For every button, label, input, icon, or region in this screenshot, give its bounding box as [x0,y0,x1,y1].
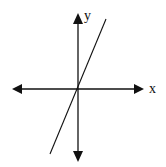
x-axis-right-arrow-icon [134,84,144,94]
y-axis-down-arrow-icon [73,151,83,162]
y-axis-up-arrow-icon [73,13,83,24]
coordinate-plane: y x [0,0,166,167]
x-axis-label: x [149,81,156,96]
y-axis-label: y [84,8,91,23]
x-axis-left-arrow-icon [12,84,22,94]
